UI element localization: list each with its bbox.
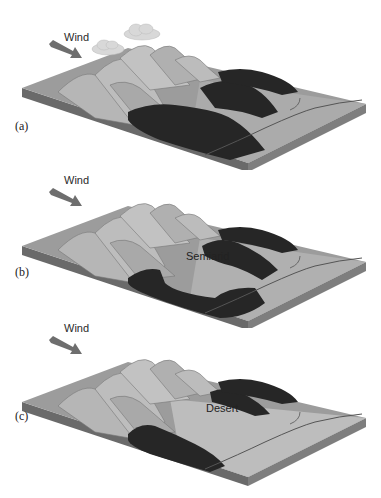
block-diagram-c <box>0 304 381 494</box>
wind-arrow-icon <box>49 188 82 206</box>
panel-b: Wind (b) Semiarid <box>0 158 381 324</box>
wind-label: Wind <box>64 322 89 334</box>
wind-label: Wind <box>64 31 89 43</box>
block-diagram-b <box>0 158 381 328</box>
panel-label: (a) <box>15 119 28 134</box>
panel-label: (b) <box>15 265 29 280</box>
region-label-semiarid: Semiarid <box>186 250 229 262</box>
panel-c: Wind (c) Desert <box>0 304 381 470</box>
region-label-desert: Desert <box>206 402 238 414</box>
panel-label: (c) <box>15 409 28 424</box>
panel-a: Wind (a) <box>0 0 381 166</box>
wind-label: Wind <box>64 174 89 186</box>
block-diagram-a <box>0 0 381 170</box>
wind-arrow-icon <box>49 336 82 354</box>
